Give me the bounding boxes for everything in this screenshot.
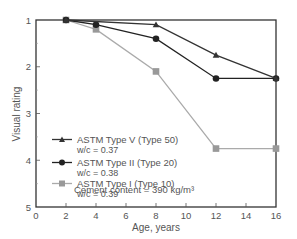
x-tick-label: 14 [241,210,252,221]
series-square [63,17,280,152]
y-tick-label: 4 [26,155,31,166]
y-axis-label: Visual rating [11,87,22,142]
circle-marker [153,35,160,42]
circle-marker [59,160,65,166]
square-marker [59,181,65,187]
legend-item: ASTM Type II (Type 20)w/c = 0.38 [52,157,177,178]
square-marker [273,145,280,152]
y-tick-label: 3 [26,108,31,119]
legend-label: ASTM Type II (Type 20) [77,157,177,168]
x-tick-label: 2 [63,210,68,221]
x-tick-label: 8 [153,210,158,221]
legend-sublabel: w/c = 0.38 [76,168,118,178]
y-tick-label: 1 [26,15,31,26]
legend-sublabel: w/c = 0.37 [76,145,118,155]
square-marker [213,145,220,152]
x-tick-label: 12 [211,210,222,221]
series-circle [63,17,280,82]
cement-content-annotation: Cement content = 390 kg/m³ [74,184,194,195]
x-axis-label: Age, years [132,222,180,233]
legend-item: ASTM Type V (Type 50)w/c = 0.37 [52,134,178,155]
x-tick-label: 4 [93,210,98,221]
y-tick-label: 5 [26,202,31,213]
x-tick-label: 10 [181,210,192,221]
x-tick-label: 0 [33,210,38,221]
y-tick-label: 2 [26,61,31,72]
legend-label: ASTM Type V (Type 50) [77,134,178,145]
series-line [66,20,276,149]
x-tick-label: 16 [271,210,282,221]
series-group [63,17,280,152]
chart: 024681012141612345 ASTM Type V (Type 50)… [0,0,297,239]
circle-marker [93,21,100,28]
square-marker [153,68,160,75]
x-tick-label: 6 [123,210,128,221]
circle-marker [213,75,220,82]
triangle-marker [213,52,220,58]
